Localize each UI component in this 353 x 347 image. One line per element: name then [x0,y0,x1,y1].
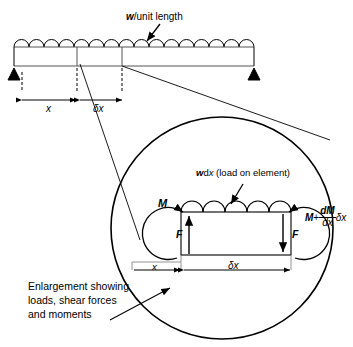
distributed-load-label: w/unit length [126,11,183,23]
element-dimension-x-label: x [152,262,157,273]
moment-right-denominator: dx [319,218,335,229]
element-dimension-dx-label: δx [228,260,239,272]
distributed-load-arcs [14,40,254,48]
beam-body [14,47,254,66]
moment-right-tail: δx [336,212,347,223]
support-left-triangle [8,68,20,80]
element-load-label: wdx (load on element) [196,168,290,179]
top-dimension-dx-label: δx [93,103,104,115]
moment-right-derivative: dMdx [319,206,335,228]
moment-right-expression: M+dMdxδx [305,207,346,229]
element-load-arcs [181,201,291,212]
beam-element-boundaries [77,47,122,66]
caption-line-1: Enlargement showing [28,280,129,294]
dimension-witness-lines [22,68,122,92]
caption-line-3: and moments [28,308,129,322]
beam-bending-diagram: w/unit length x δx wdx (load on element)… [0,0,353,347]
caption-line-2: loads, shear forces [28,294,129,308]
shear-right-label: F [292,228,298,240]
top-dimension-x-label: x [46,103,51,115]
top-beam-group [8,24,260,100]
moment-left-label: M [158,197,167,210]
support-right-triangle [248,68,260,80]
shear-left-label: F [176,228,182,240]
enlargement-caption: Enlargement showing loads, shear forces … [28,280,129,322]
load-label-leader [147,24,160,41]
load-symbol-w: w [126,11,134,22]
element-rectangle [181,212,291,255]
moment-right-numerator: dM [319,206,335,218]
beam-end-verticals [14,47,254,66]
